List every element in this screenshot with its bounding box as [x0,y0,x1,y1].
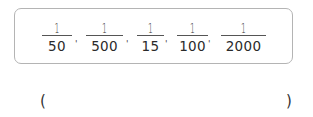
fraction-1-500: 1 500 [86,9,123,65]
fraction-bar [42,35,72,36]
fraction-bar [86,35,123,36]
fraction-list-box: 1 50 ' 1 500 ' 1 15 ' 1 100 ' 1 2000 [14,8,293,64]
numerator: 1 [184,21,201,35]
numerator: 1 [143,21,158,35]
denominator: 2000 [221,39,266,53]
answer-blank[interactable] [52,92,282,110]
separator: ' [75,40,77,49]
answer-close-paren: ) [286,92,292,110]
fraction-bar [221,35,266,36]
numerator: 1 [231,21,256,35]
fraction-1-100: 1 100 [177,9,208,65]
denominator: 15 [137,39,164,53]
numerator: 1 [94,21,114,35]
denominator: 500 [86,39,123,53]
fraction-1-50: 1 50 [42,9,72,65]
separator: ' [208,40,210,49]
fraction-bar [177,35,208,36]
fraction-1-15: 1 15 [137,9,164,65]
denominator: 100 [177,39,208,53]
fraction-bar [137,35,164,36]
denominator: 50 [42,39,72,53]
fraction-1-2000: 1 2000 [221,9,266,65]
answer-open-paren: ( [40,92,46,110]
separator: ' [126,40,128,49]
numerator: 1 [49,21,66,35]
separator: ' [165,40,167,49]
